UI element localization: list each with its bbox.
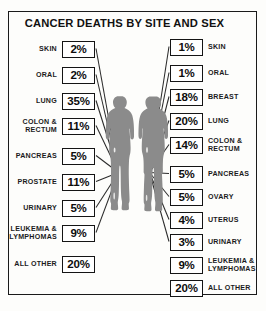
male-value-box: 35% [62, 93, 95, 110]
female-site-label: SKIN [208, 43, 266, 51]
male-site-label: LUNG [0, 97, 57, 105]
female-value-box: 18% [170, 89, 203, 106]
female-row: 3%URINARY [170, 233, 266, 251]
female-row: 4%UTERUS [170, 211, 266, 229]
female-row: 14%COLON & RECTUM [170, 136, 266, 154]
female-value-box: 5% [170, 189, 203, 206]
female-value-box: 14% [170, 137, 203, 154]
male-site-label: ORAL [0, 71, 57, 79]
female-row: 5%PANCREAS [170, 165, 266, 183]
male-row: ORAL2% [0, 66, 95, 84]
female-row: 5%OVARY [170, 188, 266, 206]
female-value-box: 9% [170, 257, 203, 274]
male-site-label: URINARY [0, 204, 57, 212]
female-row: 9%LEUKEMIA & LYMPHOMAS [170, 256, 266, 274]
female-site-label: COLON & RECTUM [208, 137, 266, 153]
male-value-box: 2% [62, 41, 95, 58]
male-value-box: 20% [62, 256, 95, 273]
male-value-box: 11% [62, 118, 95, 135]
female-value-box: 1% [170, 39, 203, 56]
male-value-box: 5% [62, 200, 95, 217]
male-site-label: COLON & RECTUM [0, 118, 57, 134]
female-value-box: 4% [170, 212, 203, 229]
female-site-label: ALL OTHER [208, 284, 266, 292]
female-row: 20%LUNG [170, 112, 266, 130]
male-row: LEUKEMIA & LYMPHOMAS9% [0, 224, 95, 242]
male-row: URINARY5% [0, 199, 95, 217]
page-title: CANCER DEATHS BY SITE AND SEX [0, 17, 249, 29]
female-site-label: UTERUS [208, 216, 266, 224]
female-site-label: BREAST [208, 93, 266, 101]
female-site-label: OVARY [208, 193, 266, 201]
female-site-label: ORAL [208, 69, 266, 77]
female-value-box: 20% [170, 280, 203, 297]
male-site-label: LEUKEMIA & LYMPHOMAS [0, 225, 57, 241]
female-value-box: 5% [170, 166, 203, 183]
female-site-label: URINARY [208, 238, 266, 246]
male-row: COLON & RECTUM11% [0, 117, 95, 135]
female-value-box: 1% [170, 65, 203, 82]
male-row: ALL OTHER20% [0, 255, 95, 273]
male-value-box: 9% [62, 225, 95, 242]
male-site-label: PROSTATE [0, 178, 57, 186]
male-site-label: PANCREAS [0, 152, 57, 160]
female-value-box: 3% [170, 234, 203, 251]
female-site-label: LEUKEMIA & LYMPHOMAS [208, 257, 266, 273]
cancer-deaths-poster: CANCER DEATHS BY SITE AND SEX SKIN2%ORAL… [0, 0, 266, 311]
male-site-label: SKIN [0, 45, 57, 53]
female-row: 20%ALL OTHER [170, 279, 266, 297]
female-row: 18%BREAST [170, 88, 266, 106]
female-site-label: LUNG [208, 117, 266, 125]
male-value-box: 11% [62, 174, 95, 191]
male-value-box: 2% [62, 67, 95, 84]
female-site-label: PANCREAS [208, 170, 266, 178]
female-value-box: 20% [170, 113, 203, 130]
female-row: 1%ORAL [170, 64, 266, 82]
male-row: LUNG35% [0, 92, 95, 110]
female-row: 1%SKIN [170, 38, 266, 56]
male-site-label: ALL OTHER [0, 260, 57, 268]
male-row: SKIN2% [0, 40, 95, 58]
male-row: PROSTATE11% [0, 173, 95, 191]
male-row: PANCREAS5% [0, 147, 95, 165]
male-value-box: 5% [62, 148, 95, 165]
